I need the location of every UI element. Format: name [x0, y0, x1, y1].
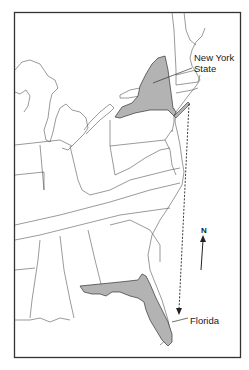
florida-leader-line	[172, 318, 188, 322]
florida-shape	[80, 274, 172, 346]
new-york-state-shape	[115, 56, 176, 118]
state-borders	[15, 12, 205, 345]
florida-label: Florida	[190, 316, 219, 326]
distance-dashed-line	[179, 104, 189, 310]
new-york-label-line2: State	[194, 64, 216, 74]
north-arrowhead-icon	[200, 235, 206, 242]
north-arrow-icon	[201, 240, 203, 270]
arrowhead-south-icon	[176, 308, 182, 315]
north-label: N	[201, 226, 207, 236]
new-york-label: New York	[194, 53, 234, 63]
